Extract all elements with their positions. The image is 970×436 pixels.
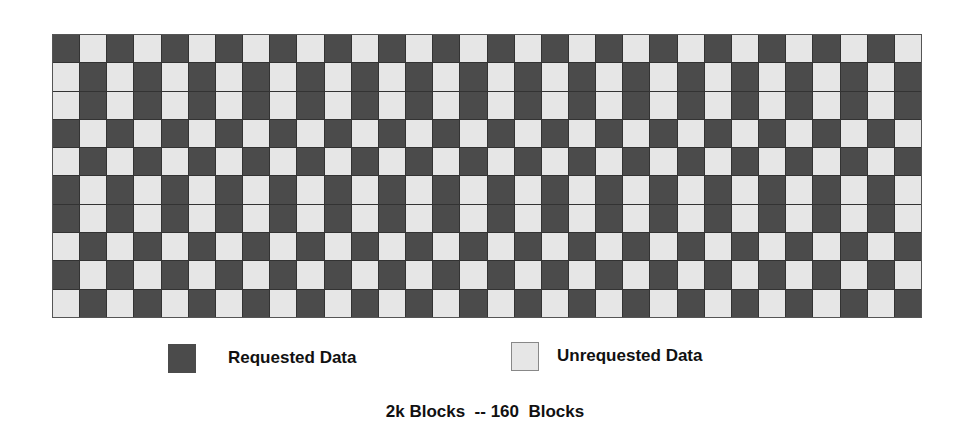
block-unrequested <box>678 261 704 288</box>
block-requested <box>515 148 541 175</box>
block-requested <box>80 148 106 175</box>
block-requested <box>297 233 323 260</box>
block-requested <box>786 63 812 90</box>
block-unrequested <box>270 290 296 317</box>
block-unrequested <box>868 63 894 90</box>
block-requested <box>596 261 622 288</box>
block-unrequested <box>379 148 405 175</box>
block-requested <box>895 290 921 317</box>
block-unrequested <box>623 176 649 203</box>
block-requested <box>53 35 79 62</box>
block-unrequested <box>460 176 486 203</box>
block-unrequested <box>297 35 323 62</box>
block-requested <box>515 233 541 260</box>
block-requested <box>134 290 160 317</box>
block-requested <box>325 205 351 232</box>
block-requested <box>841 233 867 260</box>
block-requested <box>406 233 432 260</box>
block-requested <box>813 261 839 288</box>
block-unrequested <box>895 35 921 62</box>
block-requested <box>80 92 106 119</box>
block-unrequested <box>433 148 459 175</box>
block-requested <box>107 35 133 62</box>
block-unrequested <box>895 120 921 147</box>
block-requested <box>488 176 514 203</box>
block-unrequested <box>216 63 242 90</box>
block-unrequested <box>325 290 351 317</box>
block-requested <box>813 205 839 232</box>
block-requested <box>216 35 242 62</box>
block-requested <box>596 205 622 232</box>
block-requested <box>216 261 242 288</box>
block-requested <box>542 205 568 232</box>
block-requested <box>542 176 568 203</box>
block-unrequested <box>406 120 432 147</box>
block-requested <box>678 290 704 317</box>
block-requested <box>732 63 758 90</box>
block-requested <box>813 120 839 147</box>
block-unrequested <box>596 290 622 317</box>
block-requested <box>270 35 296 62</box>
block-requested <box>53 176 79 203</box>
block-requested <box>243 92 269 119</box>
block-unrequested <box>162 233 188 260</box>
block-unrequested <box>460 120 486 147</box>
block-requested <box>705 120 731 147</box>
block-unrequested <box>270 63 296 90</box>
block-unrequested <box>678 120 704 147</box>
block-unrequested <box>352 261 378 288</box>
legend-swatch-requested <box>168 344 196 373</box>
block-unrequested <box>732 176 758 203</box>
block-requested <box>433 120 459 147</box>
block-unrequested <box>406 35 432 62</box>
block-unrequested <box>786 205 812 232</box>
block-unrequested <box>134 176 160 203</box>
block-requested <box>352 92 378 119</box>
block-unrequested <box>488 148 514 175</box>
block-requested <box>542 35 568 62</box>
block-requested <box>732 92 758 119</box>
block-requested <box>189 290 215 317</box>
legend-label-requested: Requested Data <box>228 348 356 368</box>
block-unrequested <box>732 35 758 62</box>
block-unrequested <box>189 35 215 62</box>
block-unrequested <box>243 176 269 203</box>
block-unrequested <box>216 92 242 119</box>
block-requested <box>297 63 323 90</box>
block-requested <box>80 290 106 317</box>
block-requested <box>759 261 785 288</box>
block-requested <box>379 35 405 62</box>
block-unrequested <box>134 261 160 288</box>
block-requested <box>460 290 486 317</box>
block-unrequested <box>53 92 79 119</box>
block-requested <box>379 120 405 147</box>
block-requested <box>433 261 459 288</box>
block-unrequested <box>542 233 568 260</box>
block-requested <box>216 205 242 232</box>
block-unrequested <box>868 92 894 119</box>
block-unrequested <box>325 233 351 260</box>
block-unrequested <box>80 120 106 147</box>
block-unrequested <box>705 148 731 175</box>
block-unrequested <box>623 35 649 62</box>
block-unrequested <box>650 63 676 90</box>
block-requested <box>868 261 894 288</box>
block-unrequested <box>107 63 133 90</box>
block-requested <box>325 35 351 62</box>
block-unrequested <box>515 35 541 62</box>
block-requested <box>433 176 459 203</box>
block-unrequested <box>216 148 242 175</box>
block-unrequested <box>705 290 731 317</box>
block-unrequested <box>352 205 378 232</box>
block-unrequested <box>569 205 595 232</box>
block-requested <box>623 92 649 119</box>
block-requested <box>460 92 486 119</box>
block-requested <box>895 63 921 90</box>
block-requested <box>216 176 242 203</box>
block-unrequested <box>868 290 894 317</box>
block-requested <box>650 120 676 147</box>
block-requested <box>650 35 676 62</box>
block-requested <box>80 233 106 260</box>
block-requested <box>759 35 785 62</box>
block-unrequested <box>433 233 459 260</box>
